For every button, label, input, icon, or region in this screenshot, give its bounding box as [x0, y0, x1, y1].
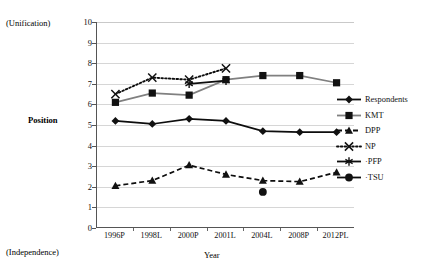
data-point-circle	[345, 173, 353, 181]
y-axis-tick-label: 9	[68, 38, 92, 48]
y-axis-tick-mark	[92, 125, 96, 126]
y-axis-tick-labels: 012345678910	[64, 22, 92, 228]
x-axis-tick-label: 2008P	[288, 231, 309, 240]
x-axis-tick-label: 2000P	[178, 231, 199, 240]
x-axis-tick-label: 2001L	[214, 231, 235, 240]
y-axis-tick-label: 3	[68, 161, 92, 171]
x-axis-tick-labels: 1996P1998L2000P2001L2004L2008P2012PL	[96, 231, 354, 245]
y-axis-tick-label: 2	[68, 182, 92, 192]
legend-label: KMT	[365, 111, 384, 120]
x-axis-tick-mark	[133, 228, 134, 231]
data-point-square	[186, 92, 193, 99]
x-axis-tick-label: 1998L	[141, 231, 162, 240]
legend-label: ·TSU	[365, 173, 384, 182]
legend-item-dpp[interactable]: DPP	[336, 123, 426, 139]
y-axis-title: Position	[28, 115, 58, 125]
data-point-square	[259, 72, 266, 79]
data-point-square	[112, 99, 119, 106]
data-point-square	[149, 89, 156, 96]
series-line-np	[115, 68, 226, 94]
y-axis-tick-label: 10	[68, 17, 92, 27]
data-point-diamond	[222, 117, 230, 125]
data-point-diamond	[345, 96, 353, 104]
y-axis-tick-label: 7	[68, 79, 92, 89]
legend-item-kmt[interactable]: KMT	[336, 108, 426, 124]
y-axis-tick-label: 6	[68, 99, 92, 109]
y-axis-tick-mark	[92, 22, 96, 23]
data-point-diamond	[185, 115, 193, 123]
data-series-layer	[97, 22, 355, 228]
y-axis-tick-mark	[92, 207, 96, 208]
x-axis-tick-label: 2012PL	[323, 231, 349, 240]
y-axis-tick-mark	[92, 104, 96, 105]
y-axis-tick-mark	[92, 146, 96, 147]
legend-marker-asterisk-icon	[336, 156, 362, 167]
legend-label: Respondents	[365, 95, 408, 104]
y-axis-tick-label: 8	[68, 58, 92, 68]
data-point-diamond	[296, 128, 304, 136]
legend-item-np[interactable]: NP	[336, 139, 426, 155]
data-point-square	[345, 112, 352, 119]
legend-item-pfp[interactable]: ·PFP	[336, 154, 426, 170]
plot-area	[96, 22, 354, 228]
y-axis-tick-label: 4	[68, 141, 92, 151]
x-axis-tick-mark	[207, 228, 208, 231]
y-axis-tick-mark	[92, 84, 96, 85]
legend-marker-cross-icon	[336, 141, 362, 152]
y-axis-tick-mark	[92, 43, 96, 44]
data-point-triangle	[185, 161, 193, 168]
data-point-cross	[111, 90, 119, 98]
x-axis-tick-mark	[243, 228, 244, 231]
data-point-diamond	[148, 120, 156, 128]
legend-label: ·PFP	[365, 157, 382, 166]
x-axis-tick-mark	[170, 228, 171, 231]
y-axis-bottom-annotation: (Independence)	[6, 247, 59, 257]
legend-marker-circle-icon	[336, 172, 362, 183]
legend-marker-triangle-icon	[336, 125, 362, 136]
legend-marker-diamond-icon	[336, 94, 362, 105]
legend-label: DPP	[365, 126, 380, 135]
x-axis-tick-label: 1996P	[104, 231, 125, 240]
y-axis-tick-mark	[92, 187, 96, 188]
y-axis-tick-mark	[92, 166, 96, 167]
y-axis-top-annotation: (Unification)	[6, 18, 50, 28]
y-axis-tick-mark	[92, 228, 96, 229]
y-axis-tick-label: 5	[68, 120, 92, 130]
x-axis-tick-mark	[280, 228, 281, 231]
legend-marker-square-icon	[336, 110, 362, 121]
y-axis-tick-label: 0	[68, 223, 92, 233]
y-axis-tick-mark	[92, 63, 96, 64]
data-point-square	[333, 79, 340, 86]
data-point-diamond	[112, 117, 120, 125]
data-point-square	[296, 72, 303, 79]
y-axis-tick-label: 1	[68, 202, 92, 212]
legend: RespondentsKMTDPPNP·PFP·TSU	[336, 92, 426, 185]
legend-item-respondents[interactable]: Respondents	[336, 92, 426, 108]
data-point-cross	[222, 64, 230, 72]
x-axis-title: Year	[204, 250, 220, 260]
x-axis-tick-label: 2004L	[251, 231, 272, 240]
data-point-diamond	[259, 127, 267, 135]
legend-label: NP	[365, 142, 376, 151]
legend-item-tsu[interactable]: ·TSU	[336, 170, 426, 186]
x-axis-tick-mark	[317, 228, 318, 231]
data-point-circle	[259, 188, 267, 196]
chart-figure: (Unification) (Independence) Position Ye…	[0, 0, 427, 272]
